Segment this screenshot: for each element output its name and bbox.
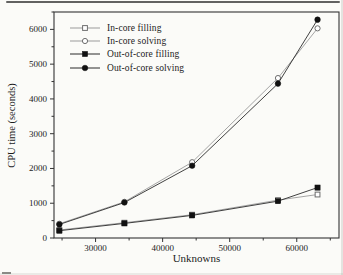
y-tick-label: 6000 [29,24,48,34]
y-tick-label: 1000 [29,198,48,208]
y-tick-label: 4000 [29,94,48,104]
legend-label: In-core filling [107,23,162,33]
x-axis-title: Unknowns [54,252,339,264]
open-circle-marker-icon [69,35,101,47]
data-point-out-of-core-filling [275,199,280,204]
legend-item-out-of-core-solving: Out-of-core solving [69,61,184,74]
y-tick-label: 0 [43,233,48,243]
data-point-in-core-solving [315,26,320,31]
x-axis: 30000400005000060000 [62,238,330,253]
y-tick-label: 2000 [29,163,48,173]
data-point-out-of-core-solving [315,17,321,23]
y-axis: 0100020003000400050006000 [29,12,54,243]
data-point-out-of-core-filling [122,221,127,226]
figure: 3000040000500006000001000200030004000500… [0,0,343,275]
data-point-out-of-core-solving [57,222,63,228]
legend-label: Out-of-core filling [107,49,179,59]
filled-circle-marker-icon [69,62,101,74]
legend-label: Out-of-core solving [107,63,184,73]
data-point-out-of-core-solving [275,81,281,87]
y-tick-label: 5000 [29,59,48,69]
y-tick-label: 3000 [29,129,48,139]
y-axis-title: CPU time (seconds) [6,13,19,239]
filled-circle-icon [82,65,88,71]
series-line-out-of-core-filling [59,188,317,231]
open-square-icon [83,25,88,30]
data-point-in-core-filling [315,192,320,197]
legend-item-in-core-filling: In-core filling [69,21,184,34]
data-point-out-of-core-solving [122,200,128,206]
data-point-out-of-core-solving [189,163,195,169]
legend-label: In-core solving [107,36,166,46]
data-point-out-of-core-filling [190,213,195,218]
open-circle-icon [82,38,87,43]
legend-item-in-core-solving: In-core solving [69,34,184,47]
open-square-marker-icon [69,22,101,34]
legend: In-core filling In-core solving Out-of-c… [69,21,184,75]
filled-square-marker-icon [69,48,101,60]
filled-square-icon [82,52,87,57]
data-point-out-of-core-filling [57,228,62,233]
legend-item-out-of-core-filling: Out-of-core filling [69,48,184,61]
data-point-out-of-core-filling [315,185,320,190]
